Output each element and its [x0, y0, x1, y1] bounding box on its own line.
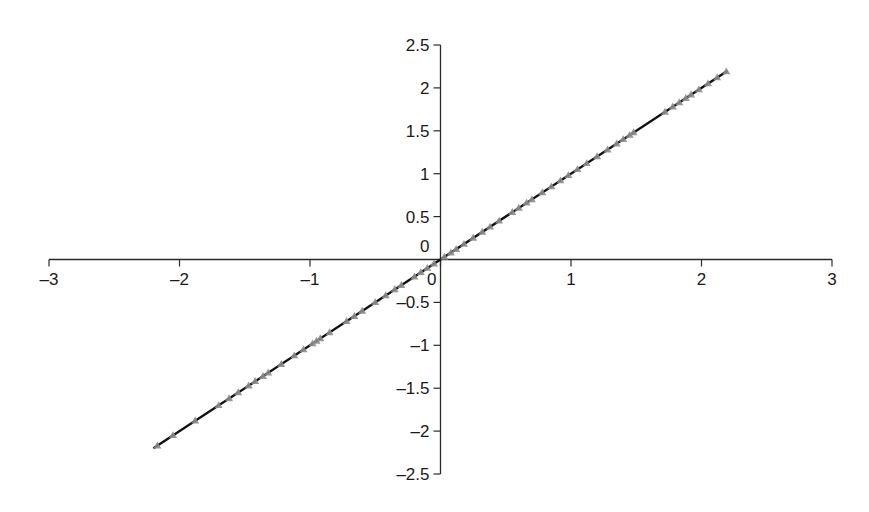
x-tick-label: –2	[170, 270, 189, 289]
x-tick-label: –3	[40, 270, 59, 289]
y-tick-label: –0.5	[396, 293, 429, 312]
y-tick-label: 0.5	[406, 208, 430, 227]
y-tick-label: –1	[411, 336, 430, 355]
x-tick-label: –1	[301, 270, 320, 289]
y-tick-label: –1.5	[396, 379, 429, 398]
chart: –3–2–101232.521.510.50–0.5–1–1.5–2–2.5	[0, 0, 869, 512]
y-tick-label: 2.5	[406, 36, 430, 55]
x-tick-label: 3	[827, 270, 836, 289]
y-tick-label: 1	[420, 165, 429, 184]
y-tick-label: 2	[420, 79, 429, 98]
x-tick-label: 2	[697, 270, 706, 289]
y-tick-label: –2.5	[396, 465, 429, 484]
series	[153, 67, 730, 448]
y-tick-label: 0	[420, 237, 429, 256]
chart-plot-area: –3–2–101232.521.510.50–0.5–1–1.5–2–2.5	[0, 0, 869, 512]
data-point-triangle-icon	[722, 67, 730, 74]
y-tick-label: –2	[411, 422, 430, 441]
y-tick-label: 1.5	[406, 122, 430, 141]
x-tick-label: 1	[566, 270, 575, 289]
x-tick-label: 0	[427, 270, 436, 289]
